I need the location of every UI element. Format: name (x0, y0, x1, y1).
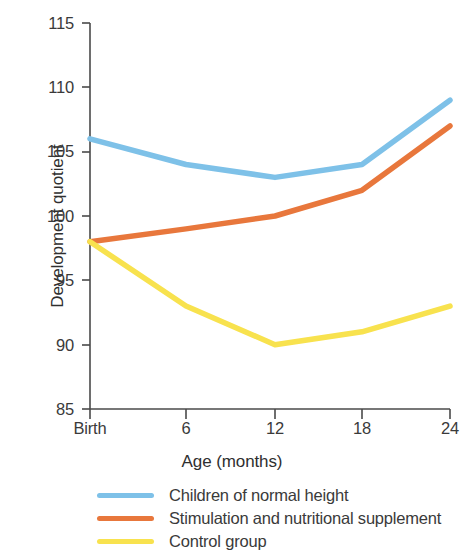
legend-label-children-of-normal-height: Children of normal height (169, 486, 348, 505)
legend-label-stimulation-and-nutritional-supplement: Stimulation and nutritional supplement (169, 509, 441, 528)
legend-item-children-of-normal-height: Children of normal height (97, 484, 464, 507)
chart-legend: Children of normal height Stimulation an… (97, 484, 464, 553)
legend-swatch-yellow (97, 539, 154, 544)
series-line-control-group (90, 242, 450, 345)
series-line-stimulation-and-nutritional-supplement (90, 126, 450, 242)
line-chart-figure: Development quotient 115 110 105 100 95 … (0, 0, 464, 553)
y-axis-ticks (82, 23, 90, 409)
x-axis-ticks (90, 409, 450, 419)
legend-swatch-blue (97, 493, 154, 498)
data-series-layer (90, 100, 450, 344)
legend-item-stimulation-and-nutritional-supplement: Stimulation and nutritional supplement (97, 507, 464, 530)
legend-swatch-orange (97, 516, 154, 521)
plot-area (0, 0, 464, 553)
legend-label-control-group: Control group (169, 532, 266, 551)
legend-item-control-group: Control group (97, 530, 464, 553)
